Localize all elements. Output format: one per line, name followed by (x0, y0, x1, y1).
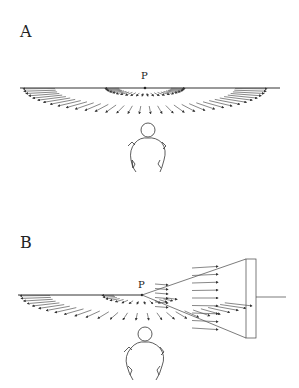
arrow (136, 313, 138, 320)
arrow (157, 313, 162, 320)
arrow (185, 311, 199, 317)
arrow (106, 298, 117, 299)
panel-a (20, 87, 280, 172)
arrow (110, 299, 120, 301)
arrow (147, 93, 148, 96)
arrow (66, 102, 87, 108)
arrow (131, 93, 136, 96)
arrow (58, 101, 81, 106)
arrow (139, 106, 141, 114)
arrow (147, 313, 149, 320)
arrow (144, 301, 145, 304)
arrow (129, 301, 133, 304)
arrow (192, 328, 218, 330)
arrow (192, 274, 218, 275)
arrow (122, 300, 128, 303)
arrow (192, 266, 218, 268)
arrow (86, 311, 100, 317)
arrow (166, 106, 173, 114)
arrow (27, 301, 55, 303)
arrow (231, 94, 262, 96)
diagram-canvas (0, 0, 299, 388)
arrow (98, 312, 109, 319)
arrow (117, 106, 124, 114)
arrow (174, 105, 184, 112)
arrow (155, 293, 168, 294)
arrow (26, 92, 57, 94)
arrow (142, 93, 143, 96)
arrow (155, 289, 168, 290)
arrow (24, 90, 56, 91)
arrow (123, 313, 128, 320)
observer-figure-b (124, 327, 164, 380)
arrow (192, 282, 218, 283)
arrow (234, 90, 266, 91)
arrow (21, 297, 51, 298)
panel-b (18, 259, 286, 380)
arrow (215, 99, 240, 104)
arrow (106, 105, 116, 112)
wedge-arrows (155, 266, 218, 329)
vertical-plane (246, 259, 256, 338)
point-p-a (144, 87, 147, 90)
arrow (151, 93, 154, 96)
arrow (106, 89, 120, 90)
arrow (103, 297, 115, 298)
arrow (209, 101, 232, 106)
arrow (167, 312, 175, 319)
arrow (154, 93, 159, 96)
arrow (24, 299, 53, 301)
arrow (233, 92, 264, 94)
arrow (128, 106, 132, 114)
arrow (171, 89, 185, 90)
arrow (155, 284, 168, 285)
arrow (155, 307, 168, 308)
arrow (159, 300, 167, 302)
outer-arrows-a (23, 89, 267, 114)
arrow (137, 301, 139, 304)
arrow (116, 300, 124, 302)
arrow (203, 102, 224, 108)
arrow (155, 298, 168, 299)
arrow (192, 313, 218, 314)
outer-arrows-b (20, 296, 252, 321)
arrow (167, 298, 178, 300)
arrow (33, 303, 60, 306)
wedge-top-edge (142, 259, 246, 295)
arrow (149, 106, 151, 114)
observer-figure-a (128, 123, 166, 172)
arrow (158, 106, 162, 114)
arrow (136, 93, 139, 96)
inner-arrows-a (105, 88, 185, 96)
arrow (163, 299, 172, 301)
arrow (50, 99, 75, 104)
arrow (110, 312, 118, 319)
arrow (29, 94, 60, 96)
arrow (150, 301, 153, 304)
